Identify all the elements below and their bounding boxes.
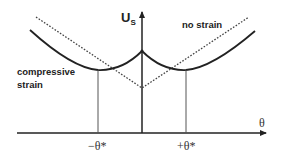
no-strain-label: no strain <box>182 19 222 30</box>
strain-energy-diagram: US no strain compressive strain θ −θ* +θ… <box>0 0 282 156</box>
cusp-point <box>141 50 144 53</box>
pos-theta-star-label: +θ* <box>177 139 196 153</box>
compressive-label-line2: strain <box>17 79 43 90</box>
y-axis-label: US <box>121 10 136 27</box>
neg-theta-star-label: −θ* <box>88 139 107 153</box>
compressive-label-line1: compressive <box>17 66 75 77</box>
x-axis-label: θ <box>259 116 265 130</box>
